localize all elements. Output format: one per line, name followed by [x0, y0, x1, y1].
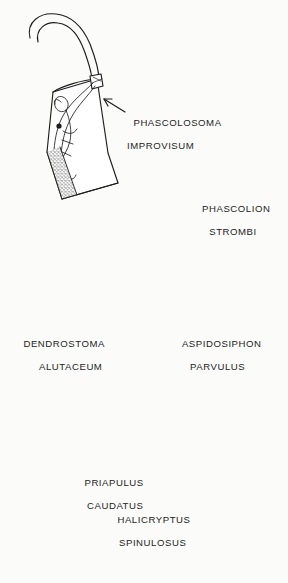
label-genus: PHASCOLOSOMA [133, 117, 221, 128]
label-aspidosiphon-parvulus: ASPIDOSIPHON PARVULUS [176, 327, 262, 384]
label-genus: PRIAPULUS [84, 477, 143, 488]
label-species: PARVULUS [190, 361, 262, 372]
label-halicryptus-spinulosus: HALICRYPTUS SPINULOSUS [111, 503, 190, 560]
label-dendrostoma-alutaceum: DENDROSTOMA ALUTACEUM [17, 327, 105, 384]
label-genus: ASPIDOSIPHON [182, 338, 262, 349]
label-phascolosoma-improvisum: PHASCOLOSOMA IMPROVISUM [127, 106, 222, 163]
label-species: STROMBI [183, 226, 283, 237]
label-species: ALUTACEUM [39, 361, 105, 372]
label-genus: DENDROSTOMA [23, 338, 105, 349]
label-genus: HALICRYPTUS [117, 514, 190, 525]
label-species: IMPROVISUM [127, 140, 222, 151]
label-genus: PHASCOLION [202, 203, 270, 214]
illustration-plate [0, 0, 288, 583]
label-species: SPINULOSUS [119, 537, 190, 548]
label-phascolion-strombi: PHASCOLION STROMBI [183, 192, 283, 249]
